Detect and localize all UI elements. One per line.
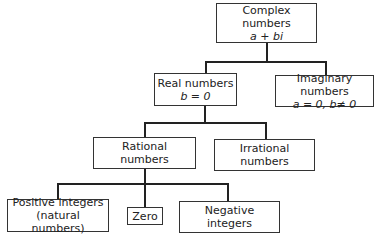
edge-rational-down [144,169,146,207]
node-formula: a = 0, b≠ 0 [293,98,357,111]
node-negative-integers: Negative integers [179,201,280,233]
node-real-numbers: Real numbers b = 0 [154,73,237,106]
node-title-line2: numbers [120,153,169,166]
node-title: Irrational [240,142,290,155]
node-title: Real numbers [158,77,234,90]
node-title: Rational [122,140,167,153]
edge-to-rational [144,122,146,137]
edge-rational-bar [57,183,228,185]
node-rational-numbers: Rational numbers [93,137,196,169]
edge-complex-bar [205,61,326,63]
node-imaginary-numbers: Imaginary numbers a = 0, b≠ 0 [275,75,374,107]
node-formula: a + bi [250,30,283,43]
edge-to-negative [227,183,229,201]
node-title-line2: integers [207,217,252,230]
node-title: Negative [205,204,254,217]
node-title-line2: numbers [240,155,289,168]
node-positive-integers: Positive integers (natural numbers) [7,199,109,232]
node-title: Imaginary numbers [276,72,373,98]
edge-to-real [205,61,207,73]
edge-real-bar [144,122,266,124]
node-zero: Zero [127,207,163,225]
edge-real-down [204,106,206,123]
edge-complex-down [266,43,268,62]
node-title: Positive integers [12,196,103,209]
edge-to-irrational [265,122,267,139]
node-title: Zero [132,210,157,223]
node-complex-numbers: Complex numbers a + bi [216,3,317,43]
node-irrational-numbers: Irrational numbers [214,139,315,171]
node-title: Complex numbers [217,4,316,30]
node-title-line2: (natural numbers) [8,209,108,235]
node-formula: b = 0 [180,90,210,103]
